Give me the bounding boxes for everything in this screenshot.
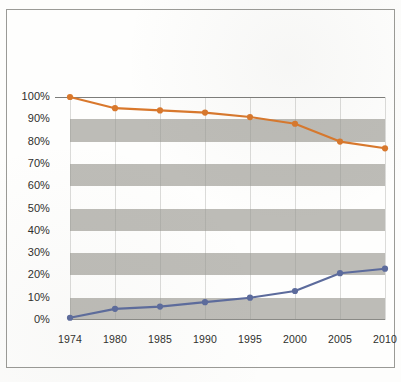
x-axis-tick-label: 1974 [48, 333, 92, 345]
x-axis-tick-label: 1990 [183, 333, 227, 345]
chart-figure: 100%90%80%70%60%50%40%30%20%10%0% 197419… [0, 0, 401, 382]
x-axis-tick-label: 1985 [138, 333, 182, 345]
x-axis-tick-label: 2005 [318, 333, 362, 345]
x-axis-tick-label: 2010 [363, 333, 401, 345]
x-axis-tick-label: 2000 [273, 333, 317, 345]
x-axis-tick-label: 1995 [228, 333, 272, 345]
x-axis-labels: 19741980198519901995200020052010 [0, 0, 401, 382]
x-axis-tick-label: 1980 [93, 333, 137, 345]
